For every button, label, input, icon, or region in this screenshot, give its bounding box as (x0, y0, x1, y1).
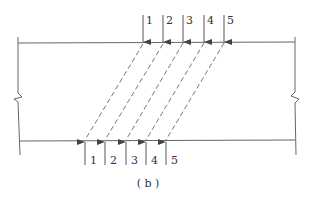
left-break-edge (14, 37, 22, 155)
top-label-5: 5 (227, 14, 234, 27)
top-label-2: 2 (166, 14, 173, 27)
top-label-3: 3 (186, 14, 193, 27)
figure-caption: ( b ) (137, 177, 160, 190)
right-break-edge (291, 37, 299, 155)
crack-lines (85, 43, 224, 140)
bottom-label-4: 4 (151, 154, 158, 167)
bottom-label-1: 1 (90, 154, 97, 167)
top-labels: 1 2 3 4 5 (146, 14, 234, 27)
beam-bottom-edge (20, 140, 295, 141)
bottom-label-2: 2 (110, 154, 117, 167)
bottom-label-3: 3 (131, 154, 138, 167)
bottom-labels: 1 2 3 4 5 (90, 154, 178, 167)
bottom-label-5: 5 (171, 154, 178, 167)
crack-line-1 (85, 44, 143, 140)
top-label-4: 4 (207, 14, 214, 27)
beam-top-edge (18, 42, 295, 43)
beam-diagram: 1 2 3 4 5 1 2 3 4 5 ( b ) (0, 0, 310, 198)
top-label-1: 1 (146, 14, 153, 27)
